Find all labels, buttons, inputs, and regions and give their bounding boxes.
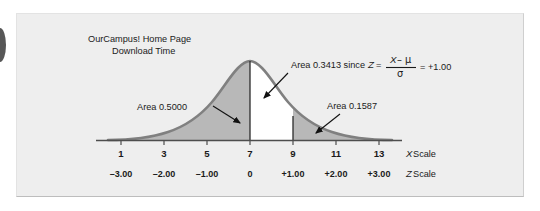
x-tick-label: 7 xyxy=(247,148,252,159)
annotation-right-area: Area 0.1587 xyxy=(327,101,377,111)
formula-minus-sign: – xyxy=(397,54,402,65)
z-tick-label: –2.00 xyxy=(153,169,176,179)
normal-distribution-figure: OurCampus! Home Page Download Time Area … xyxy=(0,0,540,211)
formula-result-equals: = xyxy=(420,62,425,72)
x-tick-label: 3 xyxy=(161,148,166,159)
z-tick-label: –1.00 xyxy=(196,169,219,179)
x-tick-label: 11 xyxy=(331,148,342,159)
x-tick-label: 1 xyxy=(118,148,124,159)
x-tick-label: 13 xyxy=(374,148,385,159)
figure-title-line2: Download Time xyxy=(112,46,175,56)
annotation-left-area: Area 0.5000 xyxy=(137,102,187,112)
z-axis-tick-labels: –3.00 –2.00 –1.00 0 +1.00 +2.00 +3.00 xyxy=(110,169,391,179)
x-scale-axis-label-symbol: X xyxy=(405,148,413,159)
formula-sigma-symbol: σ xyxy=(397,68,403,79)
annotation-middle-area: Area 0.3413 since xyxy=(291,60,365,70)
formula-mu-symbol: μ xyxy=(405,54,411,65)
z-tick-label: +1.00 xyxy=(282,169,305,179)
formula-result-value: +1.00 xyxy=(428,62,451,72)
x-axis-ticks xyxy=(121,141,379,146)
z-tick-label: –3.00 xyxy=(110,169,133,179)
z-tick-label: 0 xyxy=(247,169,252,179)
z-scale-axis-label-text: Scale xyxy=(413,169,436,179)
x-tick-label: 9 xyxy=(290,148,295,159)
z-tick-label: +2.00 xyxy=(325,169,348,179)
x-scale-axis-label-text: Scale xyxy=(413,149,436,159)
formula-numerator-x: X xyxy=(389,54,397,65)
z-scale-axis-label-symbol: Z xyxy=(405,168,413,179)
z-tick-label: +3.00 xyxy=(368,169,391,179)
x-axis-tick-labels: 1 3 5 7 9 11 13 xyxy=(118,148,384,159)
formula-equals-sign: = xyxy=(376,60,381,70)
formula-z-symbol: Z xyxy=(367,59,375,70)
x-tick-label: 5 xyxy=(204,148,210,159)
figure-title-line1: OurCampus! Home Page xyxy=(88,34,191,44)
